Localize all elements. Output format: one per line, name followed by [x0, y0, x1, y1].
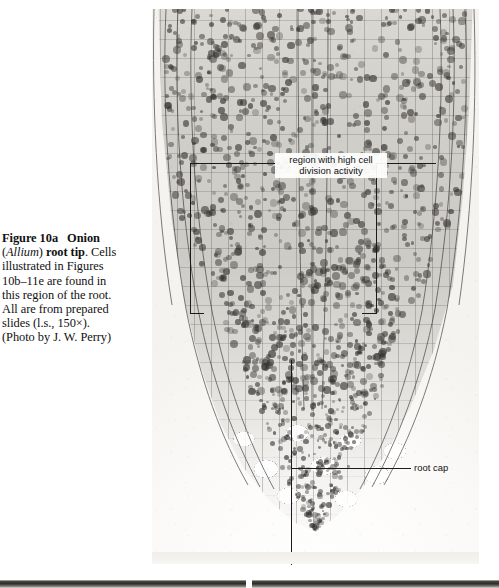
scan-edge-next-page [0, 578, 499, 588]
figure-subject: root tip [46, 245, 85, 259]
figure-page: Figure 10aOnion (Allium) root tip. Cells… [0, 0, 499, 588]
figure-title: Onion [67, 231, 100, 245]
caption-line-4: 10b–11e are found in [2, 274, 144, 288]
figure-number: Figure 10a [2, 231, 58, 245]
epidermis-cell-files [152, 9, 479, 562]
caption-line-2: (Allium) root tip. Cells [2, 245, 144, 259]
caption-line-3: illustrated in Figures [2, 259, 144, 273]
caption-line-6: All are from prepared [2, 302, 144, 316]
caption-line-5: this region of the root. [2, 288, 144, 302]
scan-edge-light [152, 552, 479, 564]
organism-name: Allium [6, 245, 39, 259]
caption-line-7: slides (l.s., 150×). [2, 316, 144, 330]
figure-caption: Figure 10aOnion (Allium) root tip. Cells… [2, 231, 144, 345]
caption-line-1: Figure 10aOnion [2, 231, 144, 245]
caption-credit: (Photo by J. W. Perry) [2, 330, 144, 344]
